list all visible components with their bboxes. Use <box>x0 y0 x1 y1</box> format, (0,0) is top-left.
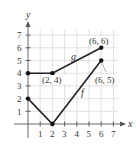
svg-text:6: 6 <box>17 43 22 53</box>
svg-text:5: 5 <box>87 129 92 139</box>
svg-text:3: 3 <box>17 81 22 91</box>
svg-text:3: 3 <box>62 129 67 139</box>
svg-text:6: 6 <box>99 129 104 139</box>
point-label-6-6: (6, 6) <box>89 36 109 46</box>
svg-text:1: 1 <box>17 107 22 117</box>
svg-text:2: 2 <box>17 94 22 104</box>
y-axis-arrow-icon <box>26 21 31 27</box>
point-label-2-4: (2, 4) <box>42 75 62 85</box>
x-axis-label: x <box>127 118 133 129</box>
svg-text:4: 4 <box>75 129 80 139</box>
function-graph: x y 1 2 3 4 5 6 7 1 2 3 4 5 6 7 (6, 6) (… <box>0 0 139 147</box>
series-g-label: g <box>71 51 76 62</box>
svg-text:7: 7 <box>17 30 22 40</box>
leader-line <box>102 62 107 72</box>
series-f-label: f <box>81 87 85 98</box>
svg-text:4: 4 <box>17 68 22 78</box>
svg-text:1: 1 <box>38 129 43 139</box>
svg-text:7: 7 <box>111 129 116 139</box>
x-tick-labels: 1 2 3 4 5 6 7 <box>38 129 116 139</box>
svg-text:5: 5 <box>17 56 22 66</box>
point-label-6-5: (6, 5) <box>95 75 115 85</box>
y-axis-label: y <box>25 9 31 20</box>
x-axis-arrow-icon <box>120 122 126 127</box>
y-tick-labels: 1 2 3 4 5 6 7 <box>17 30 22 116</box>
svg-text:2: 2 <box>50 129 55 139</box>
